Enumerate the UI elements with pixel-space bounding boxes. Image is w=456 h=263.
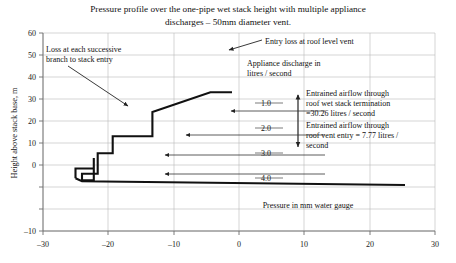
y-tick-neg10: –10 [23,227,36,236]
annotation-appliance-discharge-line-2: litres / second [247,69,291,78]
annotation-loss-branch-line-1: Loss at each successive [46,45,122,54]
x-tick-neg30: –30 [36,240,49,249]
annotation-entrained-airflow-line-2: roof wet stack termination [306,99,390,108]
x-tick-10: 10 [300,240,308,249]
annotation-appliance-discharge-line-1: Appliance discharge in [247,59,321,68]
x-tick-30: 30 [431,240,439,249]
annotation-entrained-airflow-line-5: roof vent entry = 7.77 litres / [306,131,399,140]
series-base-pressure-line [76,178,406,185]
discharge-label-1: 1.0 [261,99,271,108]
annotation-loss-branch-arrow [68,66,128,106]
annotation-entrained-airflow-line-1: Entrained airflow through [306,89,389,98]
annotation-appliance-discharge: Appliance discharge in litres / second [247,59,321,78]
y-tick-40: 40 [28,73,36,82]
annotation-entrained-airflow: Entrained airflow through roof wet stack… [298,89,399,150]
annotation-loss-branch-line-2: branch to stack entry [46,55,113,64]
annotation-entry-loss: Entry loss at roof level vent [229,37,354,50]
y-tick-50: 50 [28,51,36,60]
chart-page: Pressure profile over the one-pipe wet s… [0,0,456,263]
annotation-entrained-airflow-line-3: =30.26 litres / second [306,109,375,118]
discharge-labels: 1.0 2.0 3.0 4.0 [165,99,325,183]
y-tick-20: 20 [28,117,36,126]
discharge-label-2: 2.0 [261,124,271,133]
x-axis-title: Pressure in mm water gauge [263,201,354,210]
y-tick-10: 10 [28,139,36,148]
annotation-entry-loss-text: Entry loss at roof level vent [265,37,354,46]
series-pressure-profile [76,92,233,180]
y-axis-title: Height above stack base, m [10,87,19,179]
y-tick-30: 30 [28,95,36,104]
y-tick-0: 0 [32,161,36,170]
annotation-entrained-airflow-line-6: second [306,141,328,150]
chart-canvas: 60 50 40 30 20 10 0 –10 –30 –20 –10 0 10… [0,0,456,263]
x-axis-tick-labels: –30 –20 –10 0 10 20 30 [36,240,439,249]
annotation-entry-loss-arrow [229,40,262,50]
discharge-label-3: 3.0 [261,149,271,158]
annotation-entrained-airflow-line-4: Entrained airflow through [306,121,389,130]
x-tick-neg10: –10 [167,240,180,249]
x-tick-20: 20 [366,240,374,249]
y-axis-tick-labels: 60 50 40 30 20 10 0 –10 [23,29,36,236]
y-tick-60: 60 [28,29,36,38]
annotation-loss-branch: Loss at each successive branch to stack … [46,45,128,106]
discharge-label-4: 4.0 [261,174,271,183]
x-tick-neg20: –20 [101,240,114,249]
x-tick-0: 0 [237,240,241,249]
